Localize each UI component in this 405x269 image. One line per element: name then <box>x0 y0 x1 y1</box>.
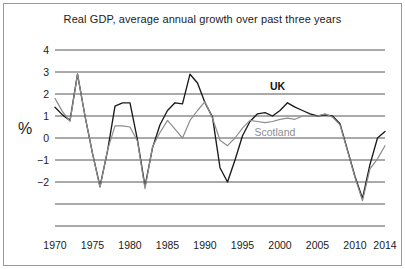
y-axis-tick-label: 2 <box>43 88 49 100</box>
gridlines <box>55 50 385 226</box>
y-axis-tick-label: −2 <box>37 176 49 188</box>
x-axis-tick-label: 1995 <box>231 239 254 251</box>
x-axis-tick-label: 1980 <box>118 239 141 251</box>
y-axis-tick-label: 4 <box>43 44 49 56</box>
x-axis-tick-label: 2014 <box>373 239 396 251</box>
y-axis-label: % <box>18 120 32 138</box>
x-axis-tick-label: 1970 <box>43 239 66 251</box>
plot-area: 43210−1−2 197019751980198519901995200020… <box>55 50 385 226</box>
x-axis-tick-label: 2000 <box>268 239 291 251</box>
x-axis-tick-label: 1975 <box>81 239 104 251</box>
series-line-uk <box>55 74 385 198</box>
page-title: Real GDP, average annual growth over pas… <box>0 13 405 25</box>
x-axis-tick-label: 1990 <box>193 239 216 251</box>
x-axis-tick-label: 1985 <box>156 239 179 251</box>
chart-svg <box>55 50 385 226</box>
y-axis-tick-label: 3 <box>43 66 49 78</box>
series-label-scotland: Scotland <box>255 126 296 138</box>
y-axis-tick-label: −1 <box>37 154 49 166</box>
x-axis-tick-label: 2005 <box>306 239 329 251</box>
chart-page: Real GDP, average annual growth over pas… <box>0 0 405 269</box>
y-axis-tick-label: 1 <box>43 110 49 122</box>
y-axis-tick-label: 0 <box>43 132 49 144</box>
series-label-uk: UK <box>270 80 285 92</box>
x-axis-tick-label: 2010 <box>343 239 366 251</box>
